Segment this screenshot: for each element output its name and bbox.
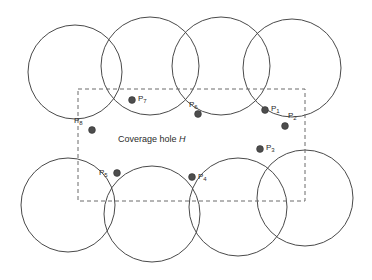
circle-top-4 bbox=[243, 19, 341, 117]
circle-top-2 bbox=[101, 17, 199, 115]
vertex-p3-label: P3 bbox=[266, 144, 275, 152]
circle-bottom-2 bbox=[104, 166, 200, 262]
vertex-p7-label: P7 bbox=[138, 95, 147, 103]
vertex-p4-dot bbox=[189, 174, 196, 181]
vertex-p5-dot bbox=[114, 170, 121, 177]
caption-prefix-text: Coverage hole bbox=[118, 134, 177, 144]
vertex-p2-label: P2 bbox=[288, 112, 297, 120]
sensor-coverage-circles bbox=[21, 17, 353, 262]
vertex-p2-dot bbox=[282, 123, 289, 130]
coverage-hole-figure: P1P2P3P4P5P6P7P8 Coverage hole H bbox=[0, 0, 372, 280]
vertex-p7-dot bbox=[129, 97, 136, 104]
vertex-p6-label: P6 bbox=[189, 101, 198, 109]
vertex-p3-dot bbox=[257, 146, 264, 153]
coverage-hole-caption: Coverage hole H bbox=[118, 135, 186, 144]
vertex-p4-label: P4 bbox=[198, 173, 207, 181]
vertex-p8-label: P8 bbox=[74, 117, 83, 125]
figure-canvas bbox=[0, 0, 372, 280]
vertex-p5-label: P5 bbox=[99, 169, 108, 177]
vertex-p1-dot bbox=[262, 107, 269, 114]
caption-hole-symbol: H bbox=[179, 134, 186, 144]
vertex-p8-dot bbox=[89, 127, 96, 134]
vertex-p1-label: P1 bbox=[271, 105, 280, 113]
vertex-p6-dot bbox=[195, 111, 202, 118]
circle-top-1 bbox=[28, 25, 122, 119]
